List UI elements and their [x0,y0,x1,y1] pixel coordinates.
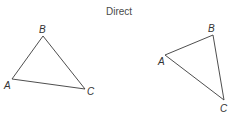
vertex-label-c: C [220,103,228,114]
triangle-outline [12,36,85,89]
triangle-outline [165,35,224,100]
triangles-canvas: ABCABC [0,0,238,123]
vertex-label-a: A [3,80,11,91]
vertex-label-b: B [39,24,46,35]
triangle-left: ABC [3,24,95,97]
vertex-label-b: B [208,23,215,34]
triangle-right: ABC [157,23,228,114]
vertex-label-a: A [157,56,165,67]
vertex-label-c: C [87,86,95,97]
